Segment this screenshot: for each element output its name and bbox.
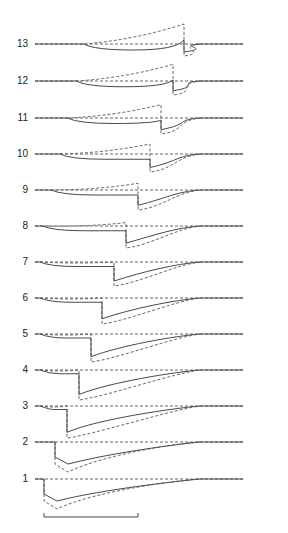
solid-trace [35,190,243,205]
row-label-1: 1 [0,474,28,484]
scale-bar [44,513,138,517]
row-label-2: 2 [0,437,28,447]
solid-trace [35,334,243,357]
row-label-13: 13 [0,39,28,49]
row-label-5: 5 [0,329,28,339]
row-label-10: 10 [0,149,28,159]
row-label-3: 3 [0,401,28,411]
dashed-trace [68,105,200,134]
dashed-trace [44,479,200,509]
solid-trace [35,80,243,91]
row-label-4: 4 [0,365,28,375]
dashed-trace [76,64,200,95]
dashed-trace [51,183,200,210]
row-label-9: 9 [0,185,28,195]
row-label-12: 12 [0,76,28,86]
solid-trace [35,118,243,130]
solid-trace [35,226,243,243]
solid-trace [35,154,243,168]
solid-trace [35,262,243,281]
solid-trace [35,406,243,432]
solid-trace [35,298,243,319]
row-label-7: 7 [0,257,28,267]
row-label-6: 6 [0,293,28,303]
solid-trace [35,442,243,464]
dashed-trace [43,223,200,248]
solid-trace [35,370,243,395]
row-label-8: 8 [0,221,28,231]
dashed-trace [84,24,200,56]
solid-trace [35,479,243,501]
dashed-trace [55,442,200,472]
trace-figure [0,0,288,533]
dashed-trace [40,406,200,438]
solid-trace [35,40,243,52]
dashed-trace [40,370,200,400]
row-label-11: 11 [0,113,28,123]
